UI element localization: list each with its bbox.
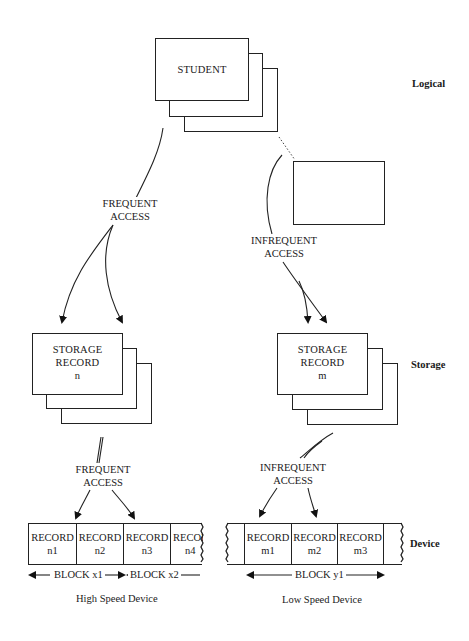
empty-logical-entity [293, 161, 385, 225]
record-id: m2 [292, 544, 337, 557]
storage-label-id: m [278, 369, 367, 382]
record-id: n1 [29, 544, 76, 557]
record-label: RECORD [245, 531, 291, 544]
level-label-device: Device [410, 538, 440, 549]
student-entity: STUDENT [155, 38, 249, 101]
record-label: RECORD [173, 531, 203, 544]
record-cell: RECORD m2 [292, 524, 338, 564]
record-cell: RECORD n2 [77, 524, 124, 564]
storage-label-id: n [33, 369, 122, 382]
record-cell-padding [227, 524, 245, 564]
access-line1: INFREQUENT [253, 461, 333, 474]
storage-label-line2: RECORD [278, 356, 367, 369]
record-cell-padding [384, 524, 402, 564]
record-id: n3 [124, 544, 170, 557]
frequent-access-label-lower: FREQUENT ACCESS [66, 463, 140, 489]
level-label-logical: Logical [412, 78, 445, 89]
record-cell: RECORD m1 [245, 524, 292, 564]
high-speed-device-records: RECORD n1 RECORD n2 RECORD n3 RECORD n4 [28, 523, 202, 565]
storage-record-n: STORAGE RECORD n [32, 333, 123, 395]
access-line2: ACCESS [66, 476, 140, 489]
record-label: RECORD [292, 531, 337, 544]
record-id: m1 [245, 544, 291, 557]
record-id: n4 [173, 544, 203, 557]
record-id: n2 [77, 544, 123, 557]
access-line2: ACCESS [253, 474, 333, 487]
record-cell: RECORD n3 [124, 524, 171, 564]
low-speed-device-records: RECORD m1 RECORD m2 RECORD m3 [227, 523, 402, 565]
storage-label-line1: STORAGE [278, 343, 367, 356]
record-label: RECORD [338, 531, 383, 544]
level-label-storage: Storage [411, 359, 445, 370]
infrequent-access-label-upper: INFREQUENT ACCESS [244, 234, 324, 260]
access-line1: FREQUENT [66, 463, 140, 476]
student-label: STUDENT [156, 63, 248, 76]
record-cell-partial: RECORD n4 [171, 524, 203, 564]
storage-label-line1: STORAGE [33, 343, 122, 356]
infrequent-access-label-lower: INFREQUENT ACCESS [253, 461, 333, 487]
record-cell: RECORD n1 [29, 524, 77, 564]
frequent-access-label-upper: FREQUENT ACCESS [92, 197, 168, 223]
record-label: RECORD [29, 531, 76, 544]
high-speed-device-caption: High Speed Device [76, 593, 158, 604]
record-id: m3 [338, 544, 383, 557]
block-x1-label: BLOCK x1 [52, 569, 105, 580]
record-cell: RECORD m3 [338, 524, 384, 564]
block-x2-label: BLOCK x2 [128, 569, 181, 580]
record-label: RECORD [77, 531, 123, 544]
low-speed-device-caption: Low Speed Device [282, 594, 362, 605]
block-y1-label: BLOCK y1 [293, 569, 346, 580]
record-label: RECORD [124, 531, 170, 544]
storage-record-m: STORAGE RECORD m [277, 333, 368, 395]
access-line2: ACCESS [244, 247, 324, 260]
access-line1: INFREQUENT [244, 234, 324, 247]
access-line1: FREQUENT [92, 197, 168, 210]
storage-label-line2: RECORD [33, 356, 122, 369]
access-line2: ACCESS [92, 210, 168, 223]
